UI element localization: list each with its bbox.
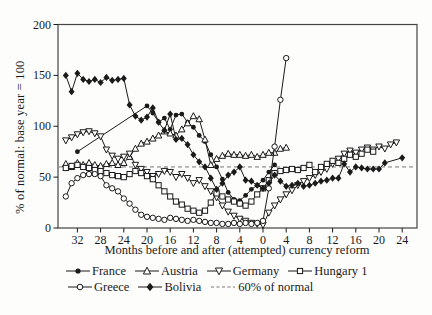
y-tick-label: 0 bbox=[45, 221, 51, 235]
greece-marker bbox=[191, 217, 196, 222]
bolivia-marker bbox=[98, 79, 104, 86]
france-marker bbox=[162, 116, 167, 121]
bolivia-marker bbox=[69, 88, 75, 95]
greece-marker bbox=[208, 220, 213, 225]
greece-marker bbox=[104, 183, 109, 188]
y-tick-label: 200 bbox=[33, 18, 51, 32]
greece-marker bbox=[69, 181, 74, 186]
hungary-marker bbox=[81, 164, 86, 169]
bolivia-marker bbox=[138, 117, 144, 124]
germany-marker bbox=[97, 134, 103, 140]
greece-marker bbox=[121, 196, 126, 201]
hungary-marker bbox=[289, 166, 294, 171]
legend-label-hungary: Hungary 1 bbox=[314, 264, 367, 279]
bolivia-marker bbox=[312, 180, 318, 187]
hungary-marker bbox=[208, 200, 213, 205]
hungary-marker bbox=[301, 165, 306, 170]
bolivia-marker bbox=[243, 177, 249, 184]
bolivia-marker bbox=[324, 177, 330, 184]
bolivia-marker bbox=[399, 154, 405, 161]
greece-marker bbox=[231, 220, 236, 225]
legend: France Austria Germany Hungary 1 Greece bbox=[0, 263, 432, 295]
open-triangle-down-icon bbox=[207, 266, 231, 276]
hungary-marker bbox=[144, 174, 149, 179]
greece-marker bbox=[156, 216, 161, 221]
greece-marker bbox=[81, 172, 86, 177]
france-marker bbox=[243, 193, 248, 198]
bolivia-marker bbox=[335, 175, 341, 182]
austria-marker bbox=[109, 159, 115, 165]
germany-marker bbox=[173, 175, 179, 181]
hungary-marker bbox=[168, 194, 173, 199]
hungary-marker bbox=[191, 208, 196, 213]
greece-marker bbox=[226, 221, 231, 226]
hungary-marker bbox=[133, 168, 138, 173]
legend-item-hungary: Hungary 1 bbox=[288, 264, 367, 279]
greece-marker bbox=[144, 214, 149, 219]
greece-marker bbox=[179, 217, 184, 222]
france-marker bbox=[226, 190, 231, 195]
bolivia-marker bbox=[127, 101, 133, 108]
hungary-marker bbox=[336, 160, 341, 165]
greece-marker bbox=[150, 215, 155, 220]
hungary-marker bbox=[127, 171, 132, 176]
hungary-marker bbox=[150, 177, 155, 182]
greece-marker bbox=[220, 221, 225, 226]
austria-marker bbox=[155, 132, 161, 138]
greece-marker bbox=[272, 144, 277, 149]
legend-label-france: France bbox=[92, 264, 126, 279]
legend-label-germany: Germany bbox=[233, 264, 280, 279]
legend-item-bolivia: Bolivia bbox=[138, 280, 201, 295]
greece-marker bbox=[139, 212, 144, 217]
greece-marker bbox=[75, 175, 80, 180]
greece-marker bbox=[260, 218, 265, 223]
austria-marker bbox=[248, 151, 254, 157]
germany-marker bbox=[225, 209, 231, 215]
bolivia-marker bbox=[208, 175, 214, 182]
germany-marker bbox=[382, 146, 388, 152]
bolivia-marker bbox=[103, 74, 109, 81]
france-marker bbox=[179, 112, 184, 117]
austria-marker bbox=[283, 144, 289, 150]
legend-label-greece: Greece bbox=[94, 280, 129, 295]
germany-marker bbox=[115, 156, 121, 162]
bolivia-marker bbox=[115, 76, 121, 83]
germany-marker bbox=[190, 181, 196, 187]
hungary-marker bbox=[278, 168, 283, 173]
france-marker bbox=[272, 163, 277, 168]
hungary-marker bbox=[156, 183, 161, 188]
hungary-marker bbox=[243, 203, 248, 208]
france-marker bbox=[174, 113, 179, 118]
hungary-marker bbox=[173, 199, 178, 204]
greece-marker bbox=[197, 218, 202, 223]
hungary-marker bbox=[313, 169, 318, 174]
greece-marker bbox=[202, 219, 207, 224]
france-marker bbox=[261, 178, 266, 183]
greece-marker bbox=[255, 220, 260, 225]
dashed-line-icon bbox=[210, 282, 236, 292]
y-tick-label: 150 bbox=[33, 68, 51, 82]
hungary-marker bbox=[75, 162, 80, 167]
greece-marker bbox=[92, 171, 97, 176]
greece-marker bbox=[162, 217, 167, 222]
hungary-marker bbox=[98, 168, 103, 173]
greece-marker bbox=[237, 221, 242, 226]
bolivia-marker bbox=[254, 182, 260, 189]
hungary-marker bbox=[365, 147, 370, 152]
france-marker bbox=[191, 125, 196, 130]
bolivia-marker bbox=[237, 163, 243, 170]
hungary-marker bbox=[231, 199, 236, 204]
legend-item-austria: Austria bbox=[135, 264, 198, 279]
france-marker bbox=[197, 133, 202, 138]
greece-marker bbox=[63, 194, 68, 199]
greece-marker bbox=[249, 221, 254, 226]
hungary-marker bbox=[121, 175, 126, 180]
austria-marker bbox=[225, 150, 231, 156]
hungary-marker bbox=[63, 165, 68, 170]
france-marker bbox=[249, 187, 254, 192]
legend-label-bolivia: Bolivia bbox=[164, 280, 201, 295]
hungary-marker bbox=[115, 174, 120, 179]
greece-marker bbox=[110, 186, 115, 191]
bolivia-marker bbox=[318, 178, 324, 185]
hungary-marker bbox=[69, 163, 74, 168]
